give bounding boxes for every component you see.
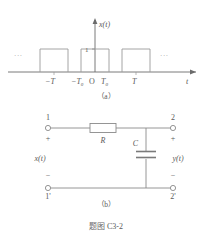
terminal-label-1-prime: 1' — [45, 192, 51, 201]
figure-svg: 1 ··· ··· x(t) t −T −T0 O T0 T — [0, 0, 213, 240]
panel-a-waveform: 1 ··· ··· x(t) t −T −T0 O T0 T — [8, 18, 196, 101]
terminal-node-1-prime[interactable] — [45, 185, 50, 190]
figure-root: 1 ··· ··· x(t) t −T −T0 O T0 T — [0, 0, 213, 240]
tick-label-minus-T: −T — [45, 77, 55, 86]
x-axis-arrowhead — [190, 70, 196, 75]
pulse-right — [122, 49, 150, 72]
resistor-symbol — [90, 124, 116, 133]
tick-label-plus-T0: T0 — [101, 77, 108, 87]
input-plus-sign: + — [46, 134, 51, 143]
tick-label-plus-T: T — [132, 77, 137, 86]
tick-label-minus-T0-sub: 0 — [81, 82, 84, 87]
pulse-right-helper — [122, 49, 150, 72]
figure-caption-id: C3-2 — [107, 222, 123, 231]
terminal-node-2[interactable] — [170, 125, 175, 130]
output-minus-sign: − — [171, 171, 176, 180]
origin-label: O — [89, 77, 95, 86]
pulse-left — [40, 49, 68, 72]
input-signal-label: x(t) — [33, 154, 45, 163]
figure-caption-text: 题图C3-2 — [89, 222, 123, 231]
capacitor-label: C — [133, 139, 139, 148]
terminal-label-2: 2 — [171, 113, 175, 122]
subfigure-label-a: （a） — [97, 92, 114, 101]
input-minus-sign: − — [46, 171, 51, 180]
output-signal-label: y(t) — [171, 154, 183, 163]
terminal-node-2-prime[interactable] — [170, 185, 175, 190]
y-axis-arrowhead — [93, 18, 98, 24]
amplitude-label: 1 — [85, 46, 89, 54]
tick-label-plus-T-base: T — [132, 77, 137, 86]
tick-label-minus-T0-base: −T — [71, 77, 81, 86]
terminal-label-1: 1 — [46, 113, 50, 122]
terminal-label-2-prime: 2' — [170, 192, 176, 201]
panel-b-circuit: R C 1 2 1' 2' + − + − — [33, 113, 183, 209]
resistor-label: R — [100, 136, 106, 145]
left-ellipsis: ··· — [14, 52, 23, 60]
figure-caption-cn: 题图 — [89, 222, 105, 231]
tick-label-minus-T-base: −T — [45, 77, 55, 86]
terminal-node-1[interactable] — [45, 125, 50, 130]
right-ellipsis: ··· — [160, 52, 169, 60]
tick-label-minus-T0: −T0 — [71, 77, 84, 87]
subfigure-label-b: （b） — [97, 200, 115, 209]
y-axis-label: x(t) — [98, 20, 110, 29]
tick-label-plus-T0-sub: 0 — [105, 82, 108, 87]
x-axis-label: t — [186, 77, 189, 86]
figure-caption: 题图C3-2 — [89, 222, 123, 231]
output-plus-sign: + — [171, 134, 176, 143]
